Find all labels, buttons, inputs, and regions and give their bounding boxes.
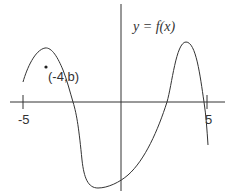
point-label: (-4,b)	[48, 69, 79, 84]
function-graph: (-4,b) -5 5 y = f(x)	[0, 0, 229, 193]
curve-f	[23, 42, 208, 188]
graph-title: y = f(x)	[131, 19, 175, 35]
tick-label-neg5: -5	[18, 112, 30, 127]
tick-label-5: 5	[205, 112, 212, 127]
